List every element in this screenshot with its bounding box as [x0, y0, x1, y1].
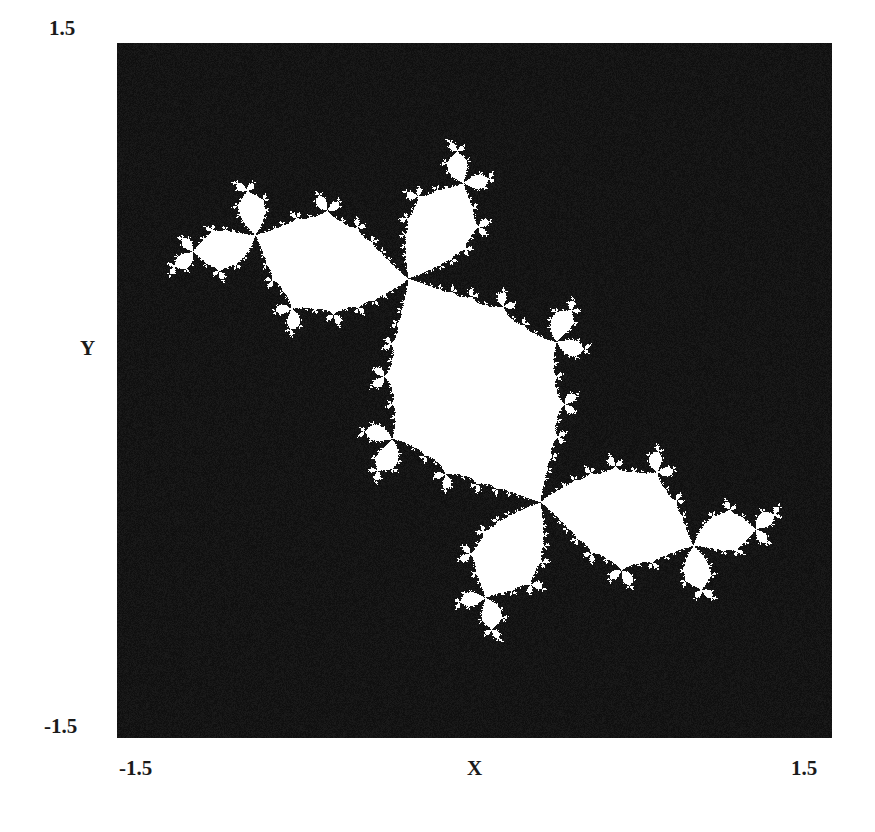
x-axis-title: X: [467, 756, 482, 781]
julia-set-plot: [117, 43, 832, 738]
x-axis-max-tick-label: 1.5: [791, 756, 817, 781]
y-axis-min-tick-label: -1.5: [44, 714, 77, 739]
y-axis-max-tick-label: 1.5: [49, 16, 75, 41]
x-axis-min-tick-label: -1.5: [119, 756, 152, 781]
y-axis-title: Y: [80, 336, 95, 361]
